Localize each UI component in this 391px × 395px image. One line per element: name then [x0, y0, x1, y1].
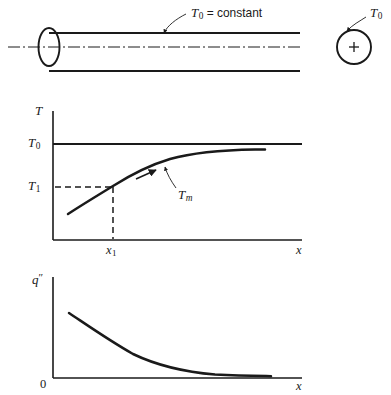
flux-plot-graphics: [53, 277, 302, 378]
tick-x1-subscript: 1: [112, 248, 117, 258]
wall-temp-equals: = constant: [207, 6, 263, 20]
tick-x1-symbol: x: [106, 243, 112, 257]
heat-flux-curve: [69, 313, 271, 376]
flux-y-axis-label: q″: [32, 272, 43, 286]
temperature-tick-x1: x1: [106, 244, 117, 258]
tick-t1-subscript: 1: [35, 184, 40, 194]
mean-temperature-annotation: Tm: [178, 188, 192, 204]
cross-section-leader-line: [347, 17, 366, 31]
temperature-tick-t1: T1: [28, 179, 40, 195]
flux-x-axis-label: x: [296, 380, 302, 393]
tm-subscript: m: [185, 193, 192, 203]
wall-temperature-label: T0 = constant: [191, 6, 262, 22]
figure-root: T0 = constant T0 T T0 T1 x1 x Tm q″ 0 x: [0, 0, 391, 395]
temperature-y-axis-label: T: [35, 104, 42, 117]
flux-primes: ″: [39, 271, 43, 283]
figure-canvas: [0, 0, 391, 395]
wall-temp-subscript: 0: [198, 11, 203, 21]
temperature-x-axis-label: x: [296, 244, 302, 257]
cross-section-temp-subscript: 0: [377, 11, 382, 21]
wall-temp-leader-line: [164, 14, 186, 33]
tube-schematic: [8, 14, 371, 71]
temperature-plot-graphics: [53, 111, 302, 240]
cross-section-center-mark: [349, 42, 359, 52]
tm-leader-line: [165, 167, 176, 188]
mean-temperature-curve: [68, 150, 265, 215]
temperature-tick-t0: T0: [28, 136, 40, 152]
flux-origin-label: 0: [40, 378, 46, 391]
cross-section-temperature-label: T0: [370, 6, 382, 22]
tick-t0-subscript: 0: [35, 141, 40, 151]
